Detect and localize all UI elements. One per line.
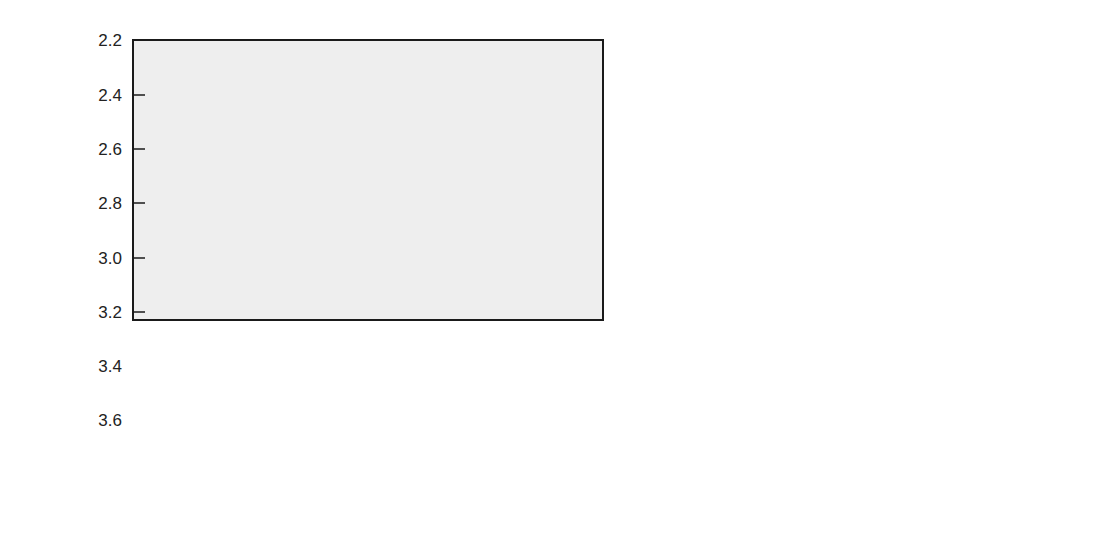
y-tick-label: 2.6: [98, 140, 122, 159]
y-tick-label: 3.2: [98, 303, 122, 322]
y-tick-label: 2.8: [98, 194, 122, 213]
figure: 2.2 2.4 2.6 2.8 3.0 3.2 3.4 3.6: [0, 0, 1099, 536]
y-tick-label: 3.4: [98, 357, 122, 376]
y-tick-label: 2.2: [98, 31, 122, 50]
plot-area: [133, 40, 603, 320]
y-tick-label: 2.4: [98, 86, 122, 105]
y-tick-label: 3.0: [98, 249, 122, 268]
y-tick-labels: 2.2 2.4 2.6 2.8 3.0 3.2 3.4 3.6: [98, 31, 122, 430]
y-tick-label: 3.6: [98, 411, 122, 430]
light-curve-chart: 2.2 2.4 2.6 2.8 3.0 3.2 3.4 3.6: [98, 31, 603, 430]
